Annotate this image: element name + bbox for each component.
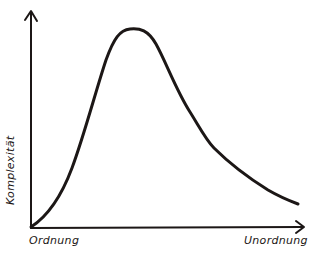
y-axis-label: Komplexität: [4, 136, 17, 205]
complexity-curve-chart: [0, 0, 314, 260]
complexity-curve: [31, 29, 298, 227]
x-axis-label-start: Ordnung: [29, 234, 79, 247]
x-axis-label-end: Unordnung: [244, 234, 308, 247]
x-axis: [31, 227, 303, 228]
